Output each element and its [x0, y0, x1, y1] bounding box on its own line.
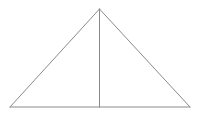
diagram-canvas — [0, 0, 200, 130]
triangle-right-side — [100, 9, 191, 107]
triangle-diagram — [0, 0, 200, 130]
triangle-left-side — [10, 9, 100, 107]
